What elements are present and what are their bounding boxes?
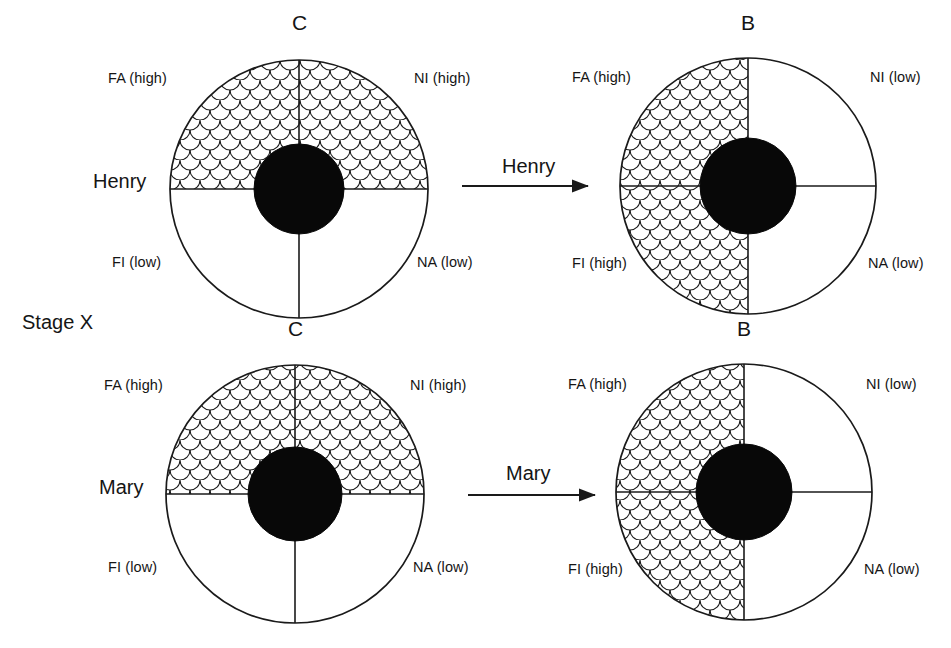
person-label-henry-before: Henry xyxy=(93,171,146,191)
quadrant-label-ni-mary-before: NI (high) xyxy=(410,378,467,393)
quadrant-label-fa-henry-after: FA (high) xyxy=(572,70,631,85)
quadrant-label-fi-mary-after: FI (high) xyxy=(568,562,623,577)
stage-label: Stage X xyxy=(22,312,93,332)
panel-cap-mary-after: B xyxy=(737,318,751,339)
diagram-svg xyxy=(0,0,951,648)
panel-mary-after xyxy=(616,364,872,621)
panel-mary-before xyxy=(166,365,424,623)
quadrant-label-ni-mary-after: NI (low) xyxy=(866,377,917,392)
quadrant-label-ni-henry-after: NI (low) xyxy=(870,70,921,85)
person-label-mary-after: Mary xyxy=(506,463,550,483)
person-label-henry-after: Henry xyxy=(502,156,555,176)
quadrant-label-na-henry-before: NA (low) xyxy=(417,255,473,270)
quadrant-label-fa-henry-before: FA (high) xyxy=(108,71,167,86)
quadrant-label-ni-henry-before: NI (high) xyxy=(414,71,471,86)
panel-cap-henry-after: B xyxy=(741,12,755,33)
core-circle xyxy=(696,444,792,540)
quadrant-label-na-mary-before: NA (low) xyxy=(413,560,469,575)
panel-cap-mary-before: C xyxy=(288,318,303,339)
quadrant-label-fi-mary-before: FI (low) xyxy=(108,560,157,575)
core-circle xyxy=(248,447,342,541)
panel-henry-before xyxy=(170,60,428,318)
quadrant-label-fi-henry-after: FI (high) xyxy=(572,256,627,271)
quadrant-label-fa-mary-after: FA (high) xyxy=(568,377,627,392)
quadrant-label-fa-mary-before: FA (high) xyxy=(104,378,163,393)
core-circle xyxy=(254,144,344,234)
quadrant-label-fi-henry-before: FI (low) xyxy=(112,255,161,270)
quadrant-label-na-mary-after: NA (low) xyxy=(864,562,920,577)
quadrant-label-na-henry-after: NA (low) xyxy=(868,256,924,271)
panel-henry-after xyxy=(620,58,876,315)
core-circle xyxy=(700,138,796,234)
person-label-mary-before: Mary xyxy=(99,477,143,497)
figure-canvas: Stage X C B Henry Henry FA (high) NI (hi… xyxy=(0,0,951,648)
panel-cap-henry-before: C xyxy=(292,12,307,33)
